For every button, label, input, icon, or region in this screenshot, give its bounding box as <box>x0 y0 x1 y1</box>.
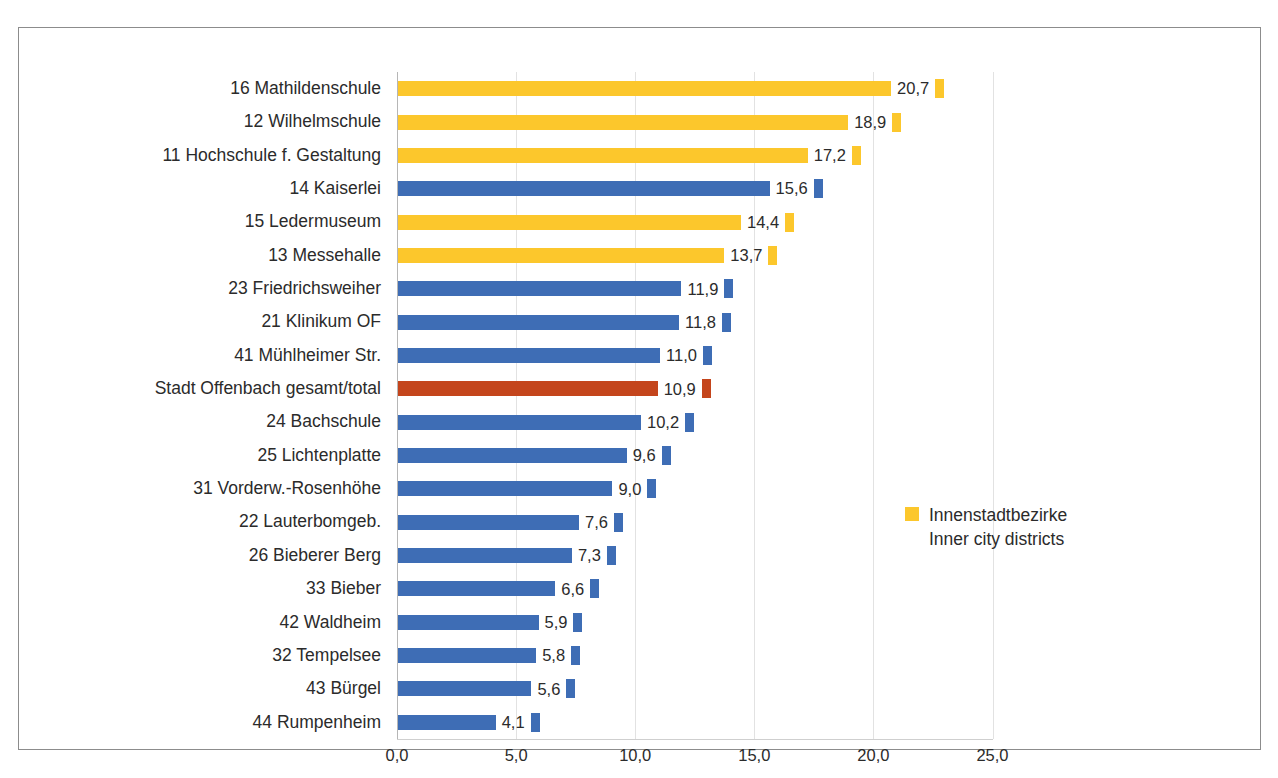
bar-row: 44 Rumpenheim4,1 <box>19 706 1260 739</box>
bar-tip-marker <box>852 146 861 165</box>
bar-group: 6,6 <box>398 572 599 605</box>
x-tick-label: 5,0 <box>505 746 528 765</box>
bar-group: 11,0 <box>398 339 712 372</box>
bar-outer[interactable] <box>398 448 627 463</box>
bar-row: 24 Bachschule10,2 <box>19 406 1260 439</box>
category-label: 41 Mühlheimer Str. <box>19 347 381 365</box>
bar-group: 10,2 <box>398 406 694 439</box>
bar-inner-city[interactable] <box>398 215 741 230</box>
bar-outer[interactable] <box>398 715 496 730</box>
x-tick-label: 20,0 <box>857 746 889 765</box>
bar-outer[interactable] <box>398 281 681 296</box>
x-tick-label: 0,0 <box>386 746 409 765</box>
bar-value-label: 13,7 <box>730 247 762 264</box>
bar-row: 31 Vorderw.-Rosenhöhe9,0 <box>19 472 1260 505</box>
bar-row: 21 Klinikum OF11,8 <box>19 305 1260 338</box>
bar-value-label: 11,0 <box>666 347 697 364</box>
category-label: 21 Klinikum OF <box>19 313 381 331</box>
bar-tip-marker <box>935 79 944 98</box>
bar-tip-marker <box>647 479 656 498</box>
bar-tip-marker <box>531 713 540 732</box>
bar-value-label: 20,7 <box>897 80 929 97</box>
bar-row: 11 Hochschule f. Gestaltung17,2 <box>19 139 1260 172</box>
bar-total[interactable] <box>398 381 658 396</box>
legend: Innenstadtbezirke Inner city districts <box>905 504 1067 551</box>
bar-inner-city[interactable] <box>398 148 808 163</box>
chart-frame: 16 Mathildenschule20,712 Wilhelmschule18… <box>18 27 1261 750</box>
bar-row: 15 Ledermuseum14,4 <box>19 205 1260 238</box>
bar-value-label: 7,6 <box>585 514 608 531</box>
category-label: 14 Kaiserlei <box>19 180 381 198</box>
bar-tip-marker <box>892 113 901 132</box>
legend-swatch-inner-city <box>905 507 919 521</box>
bar-row: 22 Lauterbomgeb.7,6 <box>19 506 1260 539</box>
bar-group: 11,8 <box>398 305 731 338</box>
bar-tip-marker <box>768 246 777 265</box>
bar-tip-marker <box>722 313 731 332</box>
bar-group: 9,6 <box>398 439 671 472</box>
x-tick-label: 25,0 <box>976 746 1008 765</box>
bar-value-label: 5,6 <box>537 681 560 698</box>
x-tick-label: 15,0 <box>738 746 770 765</box>
category-label: 15 Ledermuseum <box>19 213 381 231</box>
legend-label-de: Innenstadtbezirke <box>929 505 1067 525</box>
bar-inner-city[interactable] <box>398 248 724 263</box>
category-label: 42 Waldheim <box>19 614 381 632</box>
bar-outer[interactable] <box>398 481 612 496</box>
bar-outer[interactable] <box>398 415 641 430</box>
bar-value-label: 17,2 <box>814 147 846 164</box>
bar-row: 12 Wilhelmschule18,9 <box>19 105 1260 138</box>
bar-row: 32 Tempelsee5,8 <box>19 639 1260 672</box>
category-label: 26 Bieberer Berg <box>19 547 381 565</box>
bar-inner-city[interactable] <box>398 81 891 96</box>
category-label: 23 Friedrichsweiher <box>19 280 381 298</box>
category-label: 25 Lichtenplatte <box>19 447 381 465</box>
bar-row: 25 Lichtenplatte9,6 <box>19 439 1260 472</box>
bar-row: 23 Friedrichsweiher11,9 <box>19 272 1260 305</box>
legend-label-en: Inner city districts <box>929 529 1064 549</box>
bar-outer[interactable] <box>398 315 679 330</box>
category-label: 43 Bürgel <box>19 680 381 698</box>
bar-value-label: 6,6 <box>561 581 584 598</box>
bar-tip-marker <box>566 679 575 698</box>
bar-group: 5,6 <box>398 672 575 705</box>
bar-row: 16 Mathildenschule20,7 <box>19 72 1260 105</box>
bar-group: 13,7 <box>398 239 777 272</box>
bar-outer[interactable] <box>398 648 536 663</box>
bar-row: 43 Bürgel5,6 <box>19 672 1260 705</box>
bar-tip-marker <box>703 346 712 365</box>
bar-outer[interactable] <box>398 548 572 563</box>
category-label: 12 Wilhelmschule <box>19 113 381 131</box>
bar-row: 14 Kaiserlei15,6 <box>19 172 1260 205</box>
category-label: 33 Bieber <box>19 580 381 598</box>
bar-tip-marker <box>785 213 794 232</box>
bar-group: 15,6 <box>398 172 823 205</box>
bar-row: 42 Waldheim5,9 <box>19 606 1260 639</box>
bar-group: 4,1 <box>398 706 540 739</box>
bar-outer[interactable] <box>398 181 770 196</box>
bar-group: 14,4 <box>398 205 794 238</box>
bar-outer[interactable] <box>398 681 531 696</box>
bar-outer[interactable] <box>398 615 539 630</box>
category-label: 31 Vorderw.-Rosenhöhe <box>19 480 381 498</box>
bar-group: 18,9 <box>398 105 901 138</box>
bar-group: 7,3 <box>398 539 616 572</box>
category-label: 24 Bachschule <box>19 413 381 431</box>
bar-outer[interactable] <box>398 581 555 596</box>
bar-value-label: 11,8 <box>685 314 716 331</box>
bar-tip-marker <box>571 646 580 665</box>
bar-group: 17,2 <box>398 139 861 172</box>
bar-outer[interactable] <box>398 515 579 530</box>
bar-outer[interactable] <box>398 348 660 363</box>
bar-value-label: 10,9 <box>664 381 696 398</box>
bar-inner-city[interactable] <box>398 115 848 130</box>
bar-group: 9,0 <box>398 472 656 505</box>
x-tick-label: 10,0 <box>619 746 651 765</box>
bar-tip-marker <box>724 279 733 298</box>
bar-tip-marker <box>614 513 623 532</box>
bar-row: Stadt Offenbach gesamt/total10,9 <box>19 372 1260 405</box>
bar-row: 13 Messehalle13,7 <box>19 239 1260 272</box>
bar-tip-marker <box>607 546 616 565</box>
bar-value-label: 15,6 <box>776 180 808 197</box>
bar-value-label: 5,8 <box>542 647 565 664</box>
